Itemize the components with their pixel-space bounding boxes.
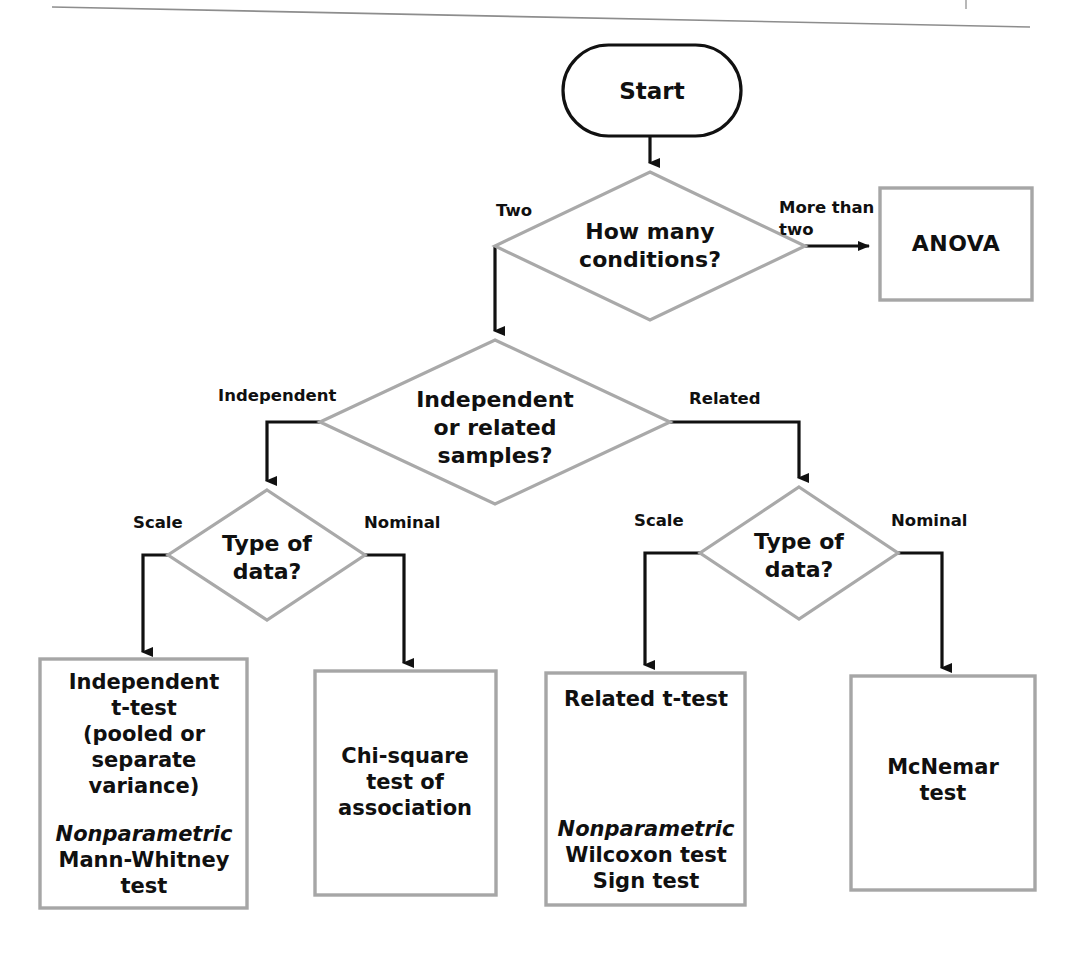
edge-label-independent: Independent — [218, 386, 336, 405]
samples-label-line3: samples? — [438, 443, 553, 468]
independent-t-test-line-3: (pooled or — [83, 722, 206, 746]
related-t-test-line-1: Related t-test — [564, 687, 728, 711]
edge-type-left-scale-to-independent-ttest — [143, 555, 168, 652]
edge-samples-to-type-right — [670, 422, 799, 478]
type-of-data-left-label-line1: Type of — [222, 531, 312, 556]
related-t-test-nonparametric-line-1: Wilcoxon test — [565, 843, 727, 867]
edge-label-scale-right: Scale — [634, 511, 684, 530]
page-scan-rule — [52, 0, 1030, 27]
statistical-test-flowchart: Start How many conditions? Two More than… — [0, 0, 1083, 953]
node-mcnemar-test[interactable]: McNemar test — [851, 676, 1035, 890]
edge-type-right-scale-to-related-ttest — [645, 553, 700, 665]
mcnemar-line-2: test — [920, 781, 967, 805]
independent-t-test-line-5: variance) — [89, 774, 200, 798]
related-t-test-nonparametric-line-2: Sign test — [593, 869, 699, 893]
edge-label-more-than-two-line2: two — [779, 220, 813, 239]
node-how-many-conditions[interactable]: How many conditions? — [495, 172, 805, 320]
edge-label-nominal-left: Nominal — [364, 513, 441, 532]
node-anova[interactable]: ANOVA — [880, 188, 1032, 300]
samples-label-line1: Independent — [416, 387, 574, 412]
anova-label: ANOVA — [912, 231, 1001, 256]
chi-square-line-1: Chi-square — [341, 744, 469, 768]
type-of-data-right-label-line2: data? — [765, 557, 834, 582]
node-type-of-data-right[interactable]: Type of data? — [700, 487, 898, 619]
type-of-data-left-label-line2: data? — [233, 559, 302, 584]
node-start[interactable]: Start — [563, 45, 741, 136]
start-label: Start — [619, 78, 684, 104]
node-type-of-data-left[interactable]: Type of data? — [168, 490, 365, 620]
related-t-test-nonparametric-heading: Nonparametric — [558, 817, 735, 841]
chi-square-line-2: test of — [366, 770, 445, 794]
edge-label-more-than-two-line1: More than — [779, 198, 874, 217]
how-many-conditions-shape — [495, 172, 805, 320]
edge-label-two: Two — [496, 201, 532, 220]
chi-square-line-3: association — [338, 796, 472, 820]
samples-label-line2: or related — [434, 415, 557, 440]
independent-t-test-nonparametric-line-1: Mann-Whitney — [59, 848, 230, 872]
edge-type-left-nominal-to-chisquare — [365, 555, 404, 663]
node-independent-t-test[interactable]: Independent t-test (pooled or separate v… — [40, 659, 247, 908]
node-chi-square-test[interactable]: Chi-square test of association — [315, 671, 496, 895]
edge-label-nominal-right: Nominal — [891, 511, 968, 530]
independent-t-test-line-4: separate — [92, 748, 197, 772]
edge-samples-to-type-left — [267, 422, 320, 481]
edge-label-scale-left: Scale — [133, 513, 183, 532]
type-of-data-right-label-line1: Type of — [754, 529, 844, 554]
independent-t-test-nonparametric-line-2: test — [121, 874, 168, 898]
edge-label-related: Related — [689, 389, 761, 408]
flowchart-canvas: Start How many conditions? Two More than… — [0, 0, 1083, 953]
node-independent-or-related-samples[interactable]: Independent or related samples? — [320, 340, 670, 504]
independent-t-test-nonparametric-heading: Nonparametric — [56, 822, 233, 846]
independent-t-test-line-1: Independent — [69, 670, 220, 694]
mcnemar-line-1: McNemar — [887, 755, 999, 779]
edge-type-right-nominal-to-mcnemar — [898, 553, 942, 668]
node-related-t-test[interactable]: Related t-test Nonparametric Wilcoxon te… — [546, 673, 745, 905]
how-many-conditions-label-line1: How many — [585, 219, 714, 244]
how-many-conditions-label-line2: conditions? — [579, 247, 721, 272]
independent-t-test-line-2: t-test — [111, 696, 177, 720]
